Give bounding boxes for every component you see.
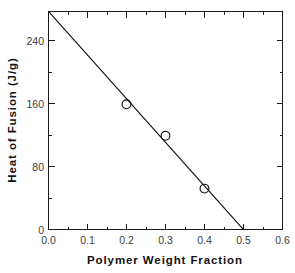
x-tick-label: 0.1 <box>80 234 95 246</box>
chart-figure: 0.0 0.1 0.2 0.3 0.4 0.5 0.6 0 80 160 240… <box>0 0 295 273</box>
y-axis-title: Heat of Fusion (J/g) <box>6 57 18 182</box>
y-tick-label: 0 <box>38 224 44 236</box>
heat-of-fusion-scatter-plot: 0.0 0.1 0.2 0.3 0.4 0.5 0.6 0 80 160 240… <box>0 0 295 273</box>
x-axis-tick-labels: 0.0 0.1 0.2 0.3 0.4 0.5 0.6 <box>41 234 290 246</box>
y-tick-label: 80 <box>32 161 44 173</box>
x-tick-label: 0.5 <box>236 234 251 246</box>
x-tick-label: 0.0 <box>41 234 56 246</box>
x-tick-label: 0.4 <box>197 234 212 246</box>
x-axis-title: Polymer Weight Fraction <box>87 254 243 266</box>
plot-area-background <box>48 11 283 229</box>
y-tick-label: 240 <box>26 35 44 47</box>
y-axis-tick-labels: 0 80 160 240 <box>26 35 44 236</box>
x-tick-label: 0.2 <box>119 234 134 246</box>
x-tick-label: 0.6 <box>275 234 290 246</box>
y-tick-label: 160 <box>26 98 44 110</box>
x-tick-label: 0.3 <box>158 234 173 246</box>
